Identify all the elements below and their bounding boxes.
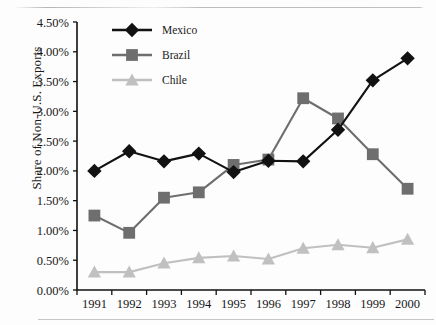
legend-item-mexico[interactable]: Mexico	[112, 23, 197, 37]
x-axis-ticks: 1991199219931994199519961997199819992000	[77, 290, 425, 311]
plot-area: 0.00%0.50%1.00%1.50%2.00%2.50%3.00%3.50%…	[0, 0, 436, 325]
marker-square	[193, 186, 205, 198]
y-tick-label: 3.00%	[37, 105, 69, 119]
marker-square	[123, 227, 135, 239]
y-tick-label: 2.50%	[37, 135, 69, 149]
chart-figure: Share of Non-U.S. Exports 0.00%0.50%1.00…	[0, 0, 436, 325]
x-tick-label: 1995	[221, 297, 246, 311]
chart-legend: MexicoBrazilChile	[112, 23, 197, 86]
x-tick-label: 1997	[291, 297, 316, 311]
y-tick-label: 3.50%	[37, 75, 69, 89]
marker-diamond	[125, 23, 139, 37]
legend-label-brazil: Brazil	[162, 49, 190, 61]
y-tick-label: 1.00%	[37, 224, 69, 238]
y-axis-ticks: 0.00%0.50%1.00%1.50%2.00%2.50%3.00%3.50%…	[37, 16, 77, 298]
marker-diamond	[366, 73, 380, 87]
x-tick-label: 1993	[152, 297, 177, 311]
legend-label-chile: Chile	[162, 74, 187, 86]
marker-square	[402, 183, 414, 195]
marker-square	[297, 92, 309, 104]
marker-diamond	[87, 164, 101, 178]
legend-label-mexico: Mexico	[162, 24, 197, 36]
series-mexico	[87, 51, 415, 179]
series-line-mexico	[94, 58, 407, 172]
x-tick-label: 1996	[256, 297, 281, 311]
marker-diamond	[157, 154, 171, 168]
y-tick-label: 0.00%	[37, 284, 69, 298]
x-tick-label: 2000	[395, 297, 420, 311]
y-tick-label: 4.00%	[37, 45, 69, 59]
series-line-chile	[94, 239, 407, 272]
marker-diamond	[192, 146, 206, 160]
x-tick-label: 1998	[326, 297, 351, 311]
y-tick-label: 0.50%	[37, 254, 69, 268]
marker-diamond	[400, 51, 414, 65]
marker-square	[367, 148, 379, 160]
line-chart-svg: 0.00%0.50%1.00%1.50%2.00%2.50%3.00%3.50%…	[0, 0, 436, 325]
legend-item-brazil[interactable]: Brazil	[112, 49, 190, 61]
series-chile	[88, 233, 414, 278]
x-tick-label: 1999	[360, 297, 385, 311]
marker-square	[126, 49, 138, 61]
marker-diamond	[122, 144, 136, 158]
marker-triangle	[401, 233, 414, 245]
legend-item-chile[interactable]: Chile	[112, 73, 187, 86]
y-tick-label: 2.00%	[37, 164, 69, 178]
marker-square	[158, 192, 170, 204]
y-tick-label: 1.50%	[37, 194, 69, 208]
y-tick-label: 4.50%	[37, 16, 69, 30]
x-tick-label: 1994	[186, 297, 212, 311]
x-tick-label: 1991	[82, 297, 107, 311]
x-tick-label: 1992	[117, 297, 142, 311]
marker-square	[89, 210, 101, 222]
